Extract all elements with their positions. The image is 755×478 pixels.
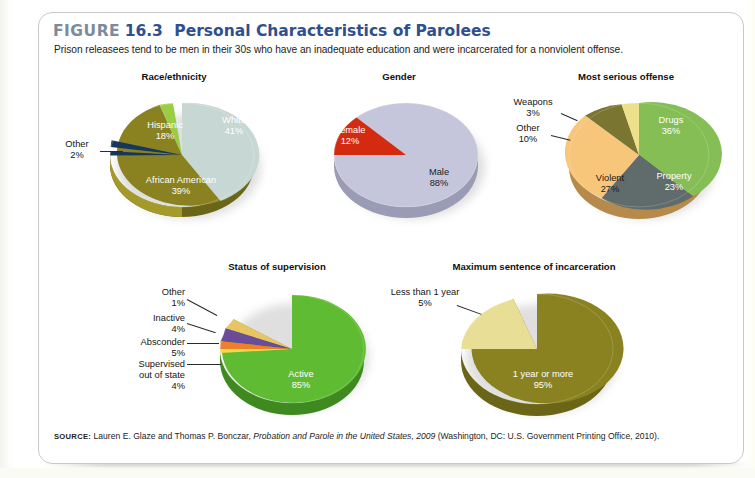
source-publication-year: 2009 [416,431,435,441]
slice-label-white-text: White [222,115,246,125]
pie-status-of-supervision [217,279,397,429]
slice-label-male: Male 88% [416,167,462,189]
slice-label-active: Active 85% [277,369,325,391]
pie-svg-status-of-supervision [217,279,397,429]
slice-label-property-value: 23% [665,182,684,192]
slice-label-male-value: 88% [430,178,449,188]
slice-label-one-year-or-more: 1 year or more 95% [497,369,589,391]
slice-label-african-american: African American 39% [129,175,233,197]
slice-label-other-race: Other 2% [55,139,99,161]
slice-label-inactive-text: Inactive [153,313,185,323]
slice-label-active-text: Active [288,369,313,379]
pie-svg-most-serious-offense [557,89,732,234]
slice-label-absconder: Absconder 5% [109,337,185,359]
slice-label-status-other-text: Other [162,287,185,297]
chart-most-serious-offense: Most serious offense [499,71,739,241]
pie-most-serious-offense [557,89,732,234]
figure-number: 16.3 [125,22,163,40]
slice-label-violent: Violent 27% [585,173,635,195]
page-right-edge [745,0,755,478]
slice-label-supervised-value: 4% [172,381,185,391]
source-kicker: SOURCE: [54,432,91,441]
slice-label-hispanic-text: Hispanic [147,120,183,130]
figure-header: FIGURE 16.3 Personal Characteristics of … [53,22,491,40]
leader-line-absconder [187,343,219,344]
slice-label-less-than-one-year-value: 5% [418,298,431,308]
slice-label-other-race-text: Other [65,139,88,149]
slice-label-status-other-value: 1% [172,298,185,308]
slice-label-drugs: Drugs 36% [647,115,695,137]
slice-label-other-offense-text: Other [516,123,539,133]
chart-title-gender: Gender [294,71,504,82]
slice-label-less-than-one-year-text: Less than 1 year [391,287,460,297]
slice-label-female-value: 12% [341,136,360,146]
source-line: SOURCE: Lauren E. Glaze and Thomas P. Bo… [54,431,659,441]
pie-svg-maximum-sentence [447,281,632,431]
chart-title-race-ethnicity: Race/ethnicity [59,71,289,82]
page-left-edge [0,0,16,478]
source-publisher: (Washington, DC: U.S. Government Printin… [438,431,660,441]
chart-race-ethnicity: Race/ethnicity [59,71,289,231]
figure-container: FIGURE 16.3 Personal Characteristics of … [38,12,744,464]
slice-label-inactive-value: 4% [172,324,185,334]
chart-maximum-sentence: Maximum sentence of incarceration 1 year… [389,261,659,426]
pie-svg-gender [321,89,491,229]
slice-label-hispanic: Hispanic 18% [137,120,193,142]
chart-gender: Gender Female 12% Male [294,71,504,231]
slice-label-violent-text: Violent [596,173,624,183]
slice-label-supervised-out-of-state: Supervised out of state 4% [105,359,185,392]
leader-line-other-race [100,151,123,152]
slice-label-white-value: 41% [225,126,244,136]
slice-label-status-other: Other 1% [127,287,185,309]
pie-race-ethnicity [97,89,267,229]
slice-label-weapons: Weapons 3% [504,97,562,119]
slice-label-other-offense: Other 10% [505,123,551,145]
slice-label-inactive: Inactive 4% [117,313,185,335]
figure-kicker: FIGURE [53,22,120,40]
slice-label-absconder-text: Absconder [141,337,185,347]
slice-label-other-race-value: 2% [70,150,83,160]
pie-maximum-sentence [447,281,632,431]
source-authors: Lauren E. Glaze and Thomas P. Bonczar, [94,431,251,441]
slice-label-property: Property 23% [645,171,703,193]
slice-label-supervised-line1: Supervised [138,359,185,369]
slice-label-weapons-value: 3% [526,108,539,118]
chart-status-of-supervision: Status of supervision [117,261,377,426]
slice-label-female: Female 12% [322,125,378,147]
slice-label-drugs-value: 36% [662,126,681,136]
leader-line-status-other [187,299,217,316]
slice-label-one-year-or-more-text: 1 year or more [513,369,573,379]
figure-subtitle: Prison releasees tend to be men in their… [54,44,623,55]
slice-label-female-text: Female [334,125,365,135]
slice-label-absconder-value: 5% [172,348,185,358]
slice-label-property-text: Property [656,171,691,181]
slice-label-supervised-line2: out of state [139,370,185,380]
slice-label-african-american-text: African American [146,175,216,185]
slice-label-male-text: Male [429,167,449,177]
slice-label-one-year-or-more-value: 95% [534,380,553,390]
pie-gender [321,89,491,229]
slice-label-african-american-value: 39% [172,186,191,196]
leader-line-supervised [187,364,221,365]
page-title: Personal Characteristics of Parolees [174,22,490,40]
slice-label-hispanic-value: 18% [156,131,175,141]
leader-line-inactive [187,323,216,333]
pie-svg-race-ethnicity [97,89,267,229]
page-bottom-edge [0,468,755,478]
chart-title-status-of-supervision: Status of supervision [187,261,367,272]
slice-label-white: White 41% [207,115,261,137]
slice-label-violent-value: 27% [601,184,620,194]
chart-title-maximum-sentence: Maximum sentence of incarceration [419,261,649,272]
slice-label-weapons-text: Weapons [513,97,552,107]
slice-label-drugs-text: Drugs [659,115,684,125]
chart-title-most-serious-offense: Most serious offense [521,71,731,82]
slice-label-active-value: 85% [292,380,311,390]
source-publication-title: Probation and Parole in the United State… [253,431,414,441]
slice-label-other-offense-value: 10% [519,134,538,144]
